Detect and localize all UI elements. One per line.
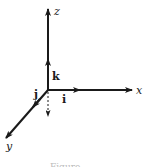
y-axis: y — [5, 90, 48, 153]
figure-caption: Figure — [50, 162, 80, 167]
z-axis-label: z — [53, 5, 60, 18]
unit-vector-k-label: k — [52, 70, 60, 83]
unit-vector-j-label: j — [33, 88, 38, 101]
unit-vector-i-label: i — [62, 93, 66, 106]
y-axis-label: y — [5, 140, 13, 153]
x-axis-label: x — [136, 84, 143, 97]
coordinate-axes-diagram: z x y k i j Figure — [0, 0, 151, 167]
